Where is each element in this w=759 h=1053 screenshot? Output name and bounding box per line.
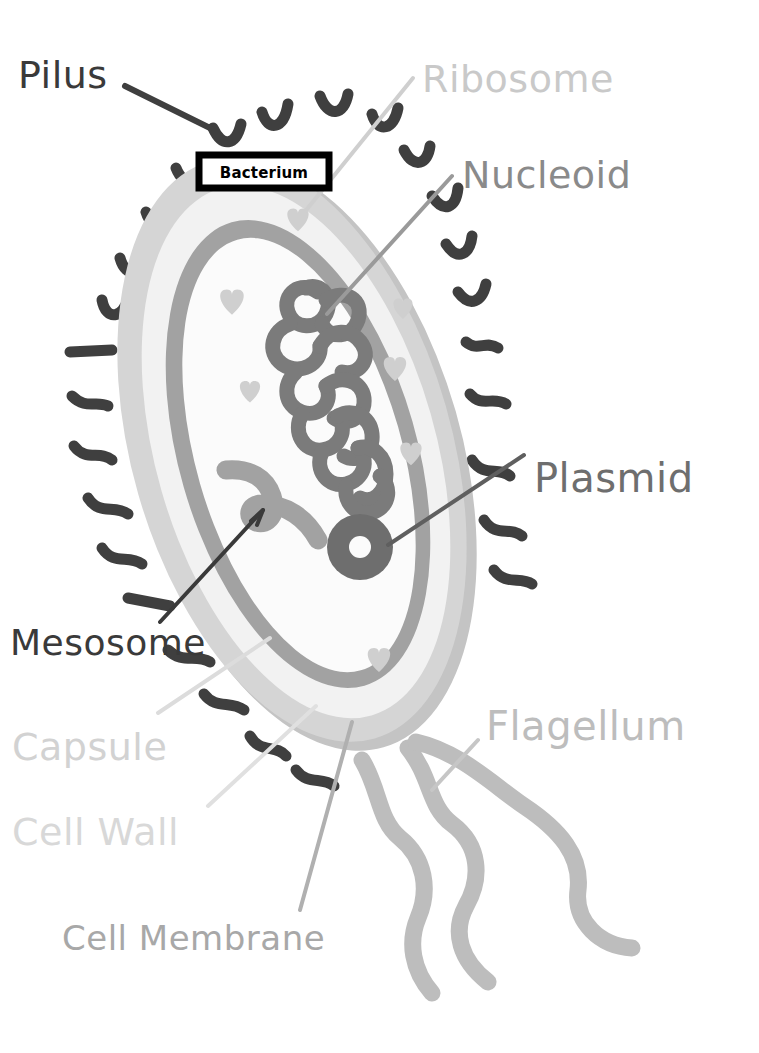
label-capsule: Capsule — [12, 725, 167, 769]
label-ribosome: Ribosome — [422, 57, 614, 101]
pilus-strand — [470, 394, 506, 404]
pilus-strand — [204, 694, 244, 710]
label-cell-wall: Cell Wall — [12, 810, 179, 854]
label-flagellum: Flagellum — [486, 703, 686, 749]
pilus-strand — [72, 396, 108, 406]
pilus-strand — [446, 236, 472, 254]
label-cell-membrane: Cell Membrane — [62, 918, 325, 958]
pilus-strand — [404, 146, 430, 162]
flagellum-strand — [362, 760, 432, 993]
label-plasmid: Plasmid — [534, 455, 694, 501]
pilus-strand — [484, 520, 522, 536]
pilus-strand — [494, 570, 532, 584]
label-nucleoid: Nucleoid — [462, 153, 631, 197]
flagella-group — [362, 742, 632, 993]
pilus-leader-line — [125, 86, 210, 128]
pilus-strand — [102, 548, 142, 564]
pilus-strand — [74, 446, 112, 460]
cell-membrane-leader-line — [300, 722, 352, 910]
pilus-strand — [213, 124, 241, 142]
pilus-strand — [458, 284, 486, 301]
plasmid-ring — [327, 514, 393, 580]
bacterium-diagram: Bacterium Pilus Ribosome Nucleoid Plasmi… — [0, 0, 759, 1053]
cell-wall-leader-line — [208, 706, 316, 806]
pilus-strand — [88, 498, 128, 514]
label-mesosome: Mesosome — [10, 622, 206, 663]
pilus-strand — [320, 94, 348, 112]
pilus-strand — [262, 104, 288, 125]
title-box: Bacterium — [199, 155, 329, 188]
title-box-label: Bacterium — [220, 164, 308, 182]
pilus-strand — [296, 770, 334, 786]
pilus-strand — [70, 350, 112, 352]
label-pilus: Pilus — [18, 53, 108, 97]
pilus-strand — [128, 598, 170, 606]
diagram-canvas: Bacterium Pilus Ribosome Nucleoid Plasmi… — [0, 0, 759, 1053]
pilus-strand — [466, 342, 498, 348]
